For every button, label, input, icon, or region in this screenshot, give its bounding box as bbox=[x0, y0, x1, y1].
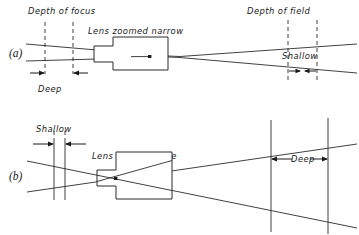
panel-b: (b) Lens zoomed wide Sha bbox=[9, 118, 357, 234]
panel-a-deep-dimension: Deep bbox=[30, 71, 88, 94]
panel-b-shallow-dimension: Shallow bbox=[33, 124, 86, 146]
panel-a-shallow-dimension: Shallow bbox=[282, 51, 318, 73]
panel-a-focus-dot bbox=[148, 55, 151, 58]
panel-a-lens-label: Lens zoomed narrow bbox=[88, 26, 184, 36]
panel-a-shallow-label: Shallow bbox=[282, 51, 318, 61]
diagram-canvas: (a) Depth of focus Depth of field Lens z… bbox=[0, 0, 359, 235]
panel-a: (a) Depth of focus Depth of field Lens z… bbox=[9, 6, 357, 94]
panel-a-label: (a) bbox=[9, 47, 23, 60]
panel-a-deep-label: Deep bbox=[38, 84, 62, 94]
arrow-right-icon bbox=[39, 71, 45, 76]
arrow-right-icon bbox=[296, 69, 302, 74]
panel-b-ray-up bbox=[27, 144, 357, 192]
arrow-left-icon bbox=[65, 142, 71, 147]
arrow-left-icon bbox=[304, 69, 310, 74]
panel-b-shallow-label: Shallow bbox=[36, 124, 72, 134]
panel-a-lens-body bbox=[94, 37, 168, 70]
panel-a-right-caption: Depth of field bbox=[247, 6, 311, 16]
arrow-left-icon bbox=[271, 157, 277, 162]
panel-b-ray-down bbox=[27, 161, 357, 228]
panel-a-left-caption: Depth of focus bbox=[28, 6, 96, 16]
arrow-left-icon bbox=[73, 71, 79, 76]
optics-diagram: (a) Depth of focus Depth of field Lens z… bbox=[0, 0, 359, 235]
arrow-right-icon bbox=[322, 157, 328, 162]
panel-b-label: (b) bbox=[9, 170, 23, 183]
arrow-right-icon bbox=[48, 142, 54, 147]
panel-b-deep-label: Deep bbox=[291, 154, 315, 164]
panel-b-focus-dot bbox=[114, 177, 117, 180]
